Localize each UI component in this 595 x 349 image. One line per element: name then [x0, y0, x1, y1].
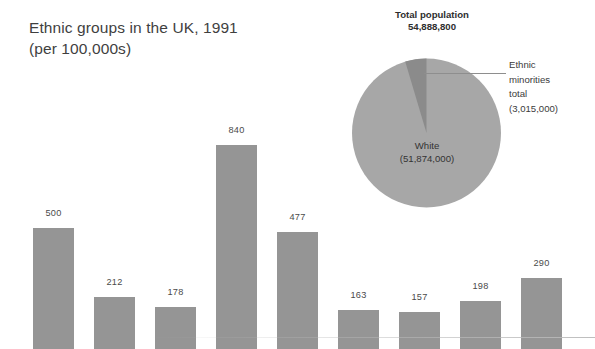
bar-group: 840 Indian — [206, 59, 267, 349]
callout-ethnic-minorities-label: Ethnic minorities total (3,015,000) — [509, 58, 591, 116]
footer-divider — [150, 337, 595, 338]
pie-slice-white-label: White (51,874,000) — [369, 140, 485, 165]
bar-value-label: 212 — [84, 277, 145, 287]
bar-group: 477 Pakistani — [267, 59, 328, 349]
bar-group: 178 Black other — [145, 59, 206, 349]
bar-rect[interactable] — [216, 145, 257, 349]
chart-figure: Ethnic groups in the UK, 1991 (per 100,0… — [0, 0, 595, 349]
bar-value-label: 840 — [206, 125, 267, 135]
bar-value-label: 157 — [389, 292, 450, 302]
bar-rect[interactable] — [399, 312, 440, 349]
callout-leader-line — [424, 73, 506, 74]
bar-value-label: 178 — [145, 287, 206, 297]
bar-rect[interactable] — [460, 301, 501, 349]
bar-value-label: 290 — [511, 258, 572, 268]
bar-rect[interactable] — [33, 228, 74, 349]
bar-rect[interactable] — [521, 278, 562, 349]
bar-group: 212 Black African — [84, 59, 145, 349]
bar-rect[interactable] — [155, 307, 196, 349]
bar-value-label: 163 — [328, 290, 389, 300]
bar-rect[interactable] — [277, 232, 318, 349]
bar-value-label: 477 — [267, 212, 328, 222]
bar-chart-plot-area: 500 Black Caribbean 212 Black African 17… — [0, 0, 595, 349]
bar-value-label: 198 — [450, 281, 511, 291]
bar-rect[interactable] — [94, 297, 135, 349]
pie-total-population-heading: Total population 54,888,800 — [362, 9, 502, 33]
pie-svg — [352, 58, 501, 208]
pie-chart — [352, 58, 501, 208]
bar-rect[interactable] — [338, 310, 379, 349]
bar-value-label: 500 — [23, 208, 84, 218]
bar-group: 500 Black Caribbean — [23, 59, 84, 349]
